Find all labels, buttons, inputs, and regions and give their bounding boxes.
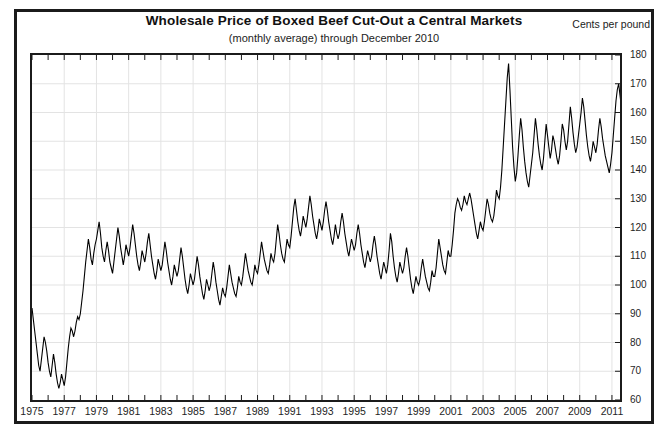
horizontal-gridlines — [32, 84, 620, 372]
chart-title: Wholesale Price of Boxed Beef Cut-Out a … — [14, 12, 654, 29]
y-axis-units-label: Cents per pound — [572, 18, 650, 30]
chart-figure: Wholesale Price of Boxed Beef Cut-Out a … — [0, 0, 670, 443]
title-block: Wholesale Price of Boxed Beef Cut-Out a … — [14, 12, 654, 46]
plot-area — [30, 53, 622, 402]
chart-subtitle: (monthly average) through December 2010 — [14, 31, 654, 46]
plot-svg — [32, 55, 620, 400]
